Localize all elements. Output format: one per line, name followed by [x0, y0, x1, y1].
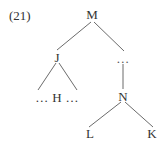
tree-node-l: L — [86, 127, 94, 140]
tree-node-j: J — [54, 51, 59, 64]
edge-j-left — [38, 63, 56, 90]
syntax-tree-figure: (21) M J … … H … N L K — [0, 0, 167, 145]
edge-n-k — [125, 102, 153, 127]
edge-j-right — [59, 63, 77, 90]
tree-edges-canvas — [0, 0, 167, 145]
tree-node-h-row: … H … — [35, 91, 78, 104]
edge-n-l — [89, 102, 121, 127]
tree-node-n: N — [118, 90, 127, 103]
tree-node-ellipsis: … — [116, 52, 130, 65]
edge-m-j — [57, 22, 91, 50]
tree-node-m: M — [86, 8, 98, 21]
edge-m-ellipsis — [94, 22, 124, 51]
tree-node-k: K — [147, 127, 156, 140]
